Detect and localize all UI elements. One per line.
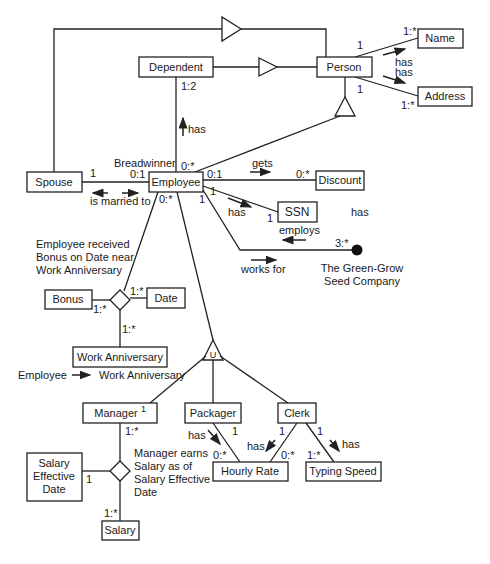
svg-text:1: 1 (141, 404, 146, 414)
svg-text:SSN: SSN (285, 205, 310, 219)
entity-manager[interactable]: Manager 1 (83, 403, 157, 423)
multiplicity: 1:* (403, 25, 417, 37)
entity-employee[interactable]: Employee (149, 172, 203, 192)
manager-note: Salary as of (134, 460, 193, 472)
svg-text:Hourly Rate: Hourly Rate (221, 465, 279, 477)
multiplicity: 0:* (296, 168, 310, 180)
entity-salary-effective-date[interactable]: Salary Effective Date (27, 453, 82, 501)
rel-label-has: has (188, 429, 206, 441)
entity-name[interactable]: Name (418, 29, 463, 48)
multiplicity: 1 (357, 83, 363, 95)
multiplicity: 1:* (307, 449, 321, 461)
entity-dependent[interactable]: Dependent (139, 57, 213, 77)
bonus-note: Work Anniversary (36, 264, 122, 276)
entity-person[interactable]: Person (317, 57, 372, 77)
rel-label-is-married-to: is married to (90, 195, 151, 207)
generalization-triangle-icon (259, 58, 277, 76)
svg-text:Salary: Salary (38, 457, 70, 469)
svg-text:U: U (210, 350, 217, 360)
rel-label-has: has (247, 440, 265, 452)
generalization-triangle-icon (335, 97, 355, 116)
multiplicity: 1 (279, 425, 285, 437)
has-arrow-icon (383, 49, 405, 55)
multiplicity: 0:* (159, 193, 173, 205)
bonus-note: Bonus on Date near (36, 251, 134, 263)
entity-typing-speed[interactable]: Typing Speed (306, 462, 381, 481)
has-arrow-icon (330, 440, 339, 451)
svg-text:Employee: Employee (152, 176, 201, 188)
svg-text:Effective: Effective (33, 470, 75, 482)
ternary-diamond-icon (110, 290, 130, 310)
multiplicity: 1:* (122, 323, 136, 335)
multiplicity: 0:1 (207, 168, 222, 180)
manager-note: Date (134, 486, 157, 498)
svg-text:Manager: Manager (94, 407, 138, 419)
rel-label-works-for: works for (240, 263, 286, 275)
multiplicity: 1:2 (181, 80, 196, 92)
entity-spouse[interactable]: Spouse (27, 172, 82, 192)
multiplicity: 1 (90, 167, 96, 179)
rel-label-has: has (228, 206, 246, 218)
multiplicity: 1 (357, 39, 363, 51)
rel-label-has: has (342, 438, 360, 450)
spouse-generalization-line (54, 29, 222, 172)
svg-text:Date: Date (42, 483, 65, 495)
company-label: The Green-Grow (321, 262, 404, 274)
manager-note: Manager earns (134, 447, 208, 459)
svg-text:Packager: Packager (190, 407, 237, 419)
multiplicity: 1:* (93, 303, 107, 315)
legend-to: Work Anniversary (99, 369, 185, 381)
multiplicity: 0:1 (130, 168, 145, 180)
ternary-diamond-icon (110, 461, 130, 481)
svg-text:Typing Speed: Typing Speed (309, 465, 376, 477)
manager-note: Salary Effective (134, 473, 210, 485)
multiplicity: 1 (317, 425, 323, 437)
multiplicity: 1:* (125, 425, 139, 437)
svg-text:Clerk: Clerk (284, 407, 310, 419)
entity-clerk[interactable]: Clerk (278, 403, 316, 423)
multiplicity: 0:* (181, 160, 195, 172)
entity-address[interactable]: Address (418, 87, 472, 106)
multiplicity: 1 (267, 212, 273, 224)
company-label: Seed Company (324, 275, 400, 287)
svg-text:Address: Address (425, 90, 466, 102)
svg-text:Discount: Discount (319, 174, 362, 186)
entity-bonus[interactable]: Bonus (45, 290, 92, 309)
entity-hourly-rate[interactable]: Hourly Rate (213, 462, 288, 481)
svg-text:Salary: Salary (104, 524, 136, 536)
svg-text:Work Anniversary: Work Anniversary (77, 351, 163, 363)
multiplicity: 0:* (213, 449, 227, 461)
floating-label-has: has (351, 206, 369, 218)
company-dot-icon (352, 245, 363, 256)
multiplicity: 0:* (281, 449, 295, 461)
has-arrow-icon (208, 430, 220, 444)
multiplicity: 3:* (335, 237, 349, 249)
entity-packager[interactable]: Packager (185, 403, 241, 423)
entity-discount[interactable]: Discount (316, 171, 364, 190)
svg-text:Name: Name (425, 32, 454, 44)
rel-label-has: has (395, 66, 413, 78)
multiplicity: 1 (232, 425, 238, 437)
bonus-note: Employee received (36, 238, 130, 250)
has-arrow-icon (266, 440, 275, 451)
rel-label-has: has (188, 123, 206, 135)
entity-ssn[interactable]: SSN (278, 202, 317, 222)
multiplicity: 1:* (401, 99, 415, 111)
multiplicity: 1:* (104, 507, 118, 519)
rel-label-employs: employs (279, 224, 320, 236)
svg-text:Spouse: Spouse (35, 176, 72, 188)
svg-text:Dependent: Dependent (149, 61, 203, 73)
legend-from: Employee (18, 369, 67, 381)
multiplicity: 1 (86, 473, 92, 485)
svg-text:Date: Date (154, 292, 177, 304)
entity-date[interactable]: Date (147, 288, 185, 308)
er-diagram: U Dependent Person Name Address Spouse E… (0, 0, 490, 564)
rel-label-gets: gets (252, 157, 273, 169)
multiplicity: 1 (210, 185, 216, 197)
entity-salary[interactable]: Salary (102, 521, 139, 540)
svg-text:Bonus: Bonus (52, 293, 84, 305)
generalization-triangle-icon (222, 17, 241, 41)
multiplicity: 1 (199, 193, 205, 205)
entity-work-anniversary[interactable]: Work Anniversary (73, 347, 167, 367)
svg-text:Person: Person (327, 61, 362, 73)
